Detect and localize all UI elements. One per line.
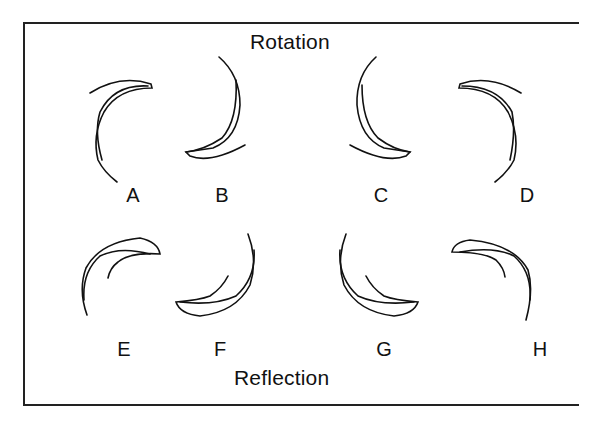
crescent-g-icon bbox=[340, 234, 418, 316]
crescent-figures bbox=[0, 0, 594, 422]
crescent-f-icon bbox=[176, 234, 254, 316]
figure-label-e: E bbox=[109, 338, 139, 361]
figure-label-g: G bbox=[369, 338, 399, 361]
figure-label-b: B bbox=[207, 184, 237, 207]
figure-label-f: F bbox=[205, 338, 235, 361]
figure-label-d: D bbox=[512, 184, 542, 207]
crescent-d-icon bbox=[459, 81, 521, 182]
figure-label-a: A bbox=[118, 184, 148, 207]
figure-label-h: H bbox=[525, 338, 555, 361]
crescent-a-icon bbox=[90, 81, 152, 182]
crescent-c-icon bbox=[350, 57, 410, 158]
crescent-h-icon bbox=[452, 240, 531, 320]
crescent-b-icon bbox=[186, 57, 245, 158]
figure-label-c: C bbox=[366, 184, 396, 207]
crescent-e-icon bbox=[82, 238, 160, 315]
